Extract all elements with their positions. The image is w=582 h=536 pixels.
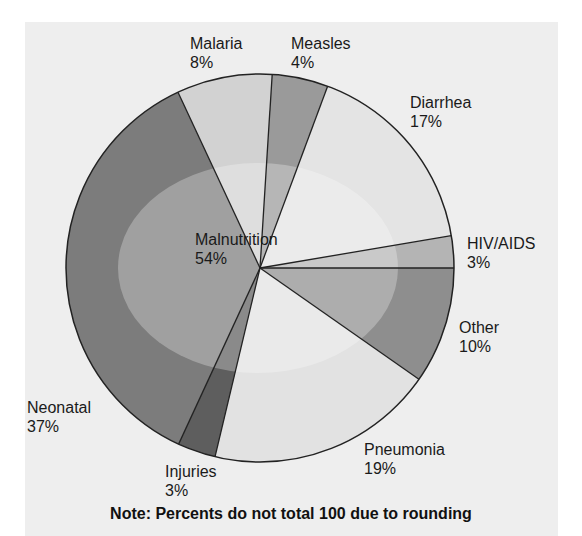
- label-hiv-aids-pct: 3%: [467, 253, 535, 272]
- label-malaria-name: Malaria: [190, 34, 242, 53]
- label-hiv-aids: HIV/AIDS 3%: [467, 234, 535, 272]
- label-injuries-pct: 3%: [165, 481, 217, 500]
- label-measles-name: Measles: [291, 34, 351, 53]
- label-malaria-pct: 8%: [190, 53, 242, 72]
- label-diarrhea-pct: 17%: [410, 112, 471, 131]
- label-other-name: Other: [459, 318, 499, 337]
- label-other-pct: 10%: [459, 337, 499, 356]
- label-neonatal: Neonatal 37%: [27, 398, 91, 436]
- label-diarrhea-name: Diarrhea: [410, 93, 471, 112]
- label-injuries: Injuries 3%: [165, 462, 217, 500]
- label-malaria: Malaria 8%: [190, 34, 242, 72]
- label-malnutrition-name: Malnutrition: [195, 230, 278, 249]
- label-measles-pct: 4%: [291, 53, 351, 72]
- label-pneumonia-name: Pneumonia: [364, 440, 445, 459]
- chart-note: Note: Percents do not total 100 due to r…: [0, 505, 582, 523]
- label-neonatal-pct: 37%: [27, 417, 91, 436]
- label-hiv-aids-name: HIV/AIDS: [467, 234, 535, 253]
- label-pneumonia: Pneumonia 19%: [364, 440, 445, 478]
- label-malnutrition: Malnutrition 54%: [195, 230, 278, 268]
- label-malnutrition-pct: 54%: [195, 249, 278, 268]
- label-injuries-name: Injuries: [165, 462, 217, 481]
- label-other: Other 10%: [459, 318, 499, 356]
- label-measles: Measles 4%: [291, 34, 351, 72]
- label-pneumonia-pct: 19%: [364, 459, 445, 478]
- label-diarrhea: Diarrhea 17%: [410, 93, 471, 131]
- label-neonatal-name: Neonatal: [27, 398, 91, 417]
